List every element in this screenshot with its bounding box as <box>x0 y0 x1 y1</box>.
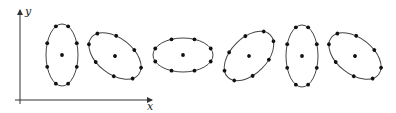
boundary-point <box>354 33 359 38</box>
boundary-point <box>66 82 70 86</box>
center-point <box>181 53 185 57</box>
boundary-point <box>315 66 319 70</box>
boundary-point <box>54 24 58 28</box>
boundary-point <box>75 41 79 45</box>
boundary-point <box>153 47 157 51</box>
boundary-point <box>326 42 331 47</box>
boundary-point <box>193 69 197 73</box>
diagram-canvas: y x <box>0 0 396 113</box>
boundary-point <box>351 74 356 79</box>
boundary-point <box>294 83 298 87</box>
boundary-point <box>138 65 143 70</box>
boundary-point <box>250 73 255 78</box>
boundary-point <box>378 65 383 70</box>
boundary-point <box>285 42 289 46</box>
x-axis-label: x <box>147 100 154 113</box>
boundary-point <box>335 31 340 36</box>
ellipse-3 <box>153 37 213 72</box>
boundary-point <box>66 24 70 28</box>
boundary-point <box>243 33 248 38</box>
boundary-point <box>114 33 119 38</box>
center-point <box>246 53 251 58</box>
boundary-point <box>95 31 100 36</box>
ellipse-sequence-diagram: y x <box>0 0 396 113</box>
boundary-point <box>306 25 310 29</box>
boundary-point <box>209 47 213 51</box>
boundary-point <box>226 50 231 55</box>
center-point <box>112 53 117 58</box>
ellipse-4 <box>215 22 284 91</box>
boundary-point <box>271 39 276 44</box>
boundary-point <box>45 65 49 69</box>
ellipse-2 <box>80 23 150 89</box>
boundary-point <box>209 60 213 64</box>
boundary-point <box>285 66 289 70</box>
boundary-point <box>130 76 135 81</box>
center-point <box>300 54 304 58</box>
boundary-point <box>261 29 266 34</box>
boundary-point <box>306 83 310 87</box>
boundary-point <box>153 60 157 64</box>
center-point <box>60 53 64 57</box>
boundary-point <box>222 68 227 73</box>
boundary-point <box>54 82 58 86</box>
ellipses-group <box>45 22 390 91</box>
axes: y x <box>15 5 154 113</box>
center-point <box>352 53 357 58</box>
boundary-point <box>232 78 237 83</box>
boundary-point <box>266 57 271 62</box>
boundary-point <box>86 42 91 47</box>
boundary-point <box>193 37 197 41</box>
boundary-point <box>170 37 174 41</box>
boundary-point <box>370 76 375 81</box>
boundary-point <box>170 69 174 73</box>
y-axis-label: y <box>24 5 32 18</box>
boundary-point <box>111 74 116 79</box>
ellipse-1 <box>45 24 78 86</box>
ellipse-5 <box>285 25 318 87</box>
ellipse-6 <box>320 23 390 89</box>
boundary-point <box>294 25 298 29</box>
boundary-point <box>45 41 49 45</box>
boundary-point <box>75 65 79 69</box>
boundary-point <box>315 42 319 46</box>
